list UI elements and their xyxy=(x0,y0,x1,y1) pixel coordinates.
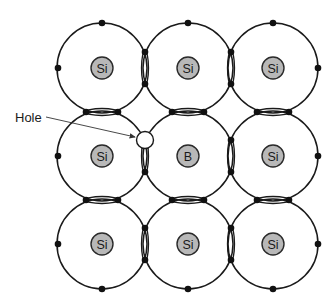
atom-label: Si xyxy=(96,150,107,164)
nuclei: Si Si Si Si B Si Si Si Si xyxy=(91,57,284,255)
electron xyxy=(270,20,277,27)
hole-marker xyxy=(137,132,154,149)
atom-label: Si xyxy=(96,62,107,76)
atom-label: Si xyxy=(267,62,278,76)
boron-atom-label: B xyxy=(184,150,192,164)
atom-label: Si xyxy=(96,238,107,252)
electron xyxy=(315,65,322,72)
hole-label: Hole xyxy=(15,110,42,125)
atom-label: Si xyxy=(267,150,278,164)
electron xyxy=(185,286,192,293)
atom-label: Si xyxy=(182,238,193,252)
electron xyxy=(55,241,62,248)
atom-label: Si xyxy=(182,62,193,76)
electron xyxy=(315,241,322,248)
atom-label: Si xyxy=(267,238,278,252)
lattice-diagram: Hole Si Si Si Si B Si Si Si Si xyxy=(0,0,333,306)
electron xyxy=(185,20,192,27)
electron xyxy=(315,153,322,160)
electron xyxy=(99,286,106,293)
electron xyxy=(270,286,277,293)
electron xyxy=(55,153,62,160)
hole-arrow xyxy=(46,117,135,137)
electron xyxy=(99,20,106,27)
electron xyxy=(55,65,62,72)
